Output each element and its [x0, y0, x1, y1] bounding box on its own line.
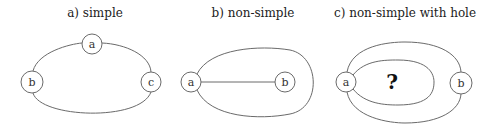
node-c-label: c — [148, 76, 154, 89]
diagram-canvas: a b c a b a b ? — [0, 0, 490, 131]
panel-a-graph: a b c — [21, 34, 161, 113]
node-b-label: b — [457, 77, 464, 90]
node-b-label: b — [28, 76, 35, 89]
edge-b-a — [33, 43, 82, 71]
hole-question-mark: ? — [386, 70, 398, 94]
node-a-label: a — [188, 76, 195, 89]
panel-c-graph: a b ? — [336, 42, 472, 123]
node-a-label: a — [89, 38, 96, 51]
node-b-label: b — [281, 76, 288, 89]
panel-b-graph: a b — [181, 48, 313, 117]
edge-b-c — [33, 92, 151, 113]
edge-a-b-upper — [347, 42, 461, 72]
node-a-label: a — [343, 76, 350, 89]
edge-a-b-lower — [347, 92, 461, 123]
edge-a-c — [102, 43, 151, 72]
